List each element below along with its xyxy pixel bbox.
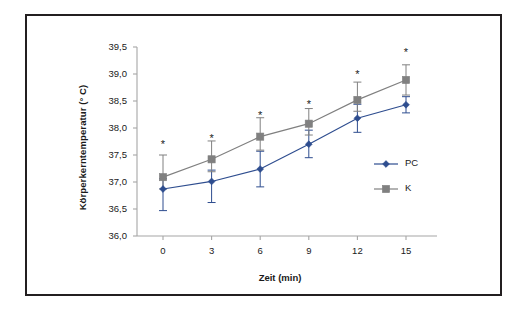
data-point-PC [354, 115, 361, 122]
data-point-K [208, 156, 215, 163]
series-group [159, 65, 410, 211]
y-axis-title: Körperkerntemperatur (° C) [77, 48, 88, 248]
x-tick-label: 9 [294, 245, 324, 256]
data-point-PC [208, 178, 215, 185]
significance-asterisk: * [157, 139, 169, 150]
data-point-K [305, 120, 312, 127]
data-point-K [159, 174, 166, 181]
axes-group [133, 47, 437, 240]
y-tick-label: 37,0 [93, 176, 127, 187]
data-point-PC [403, 101, 410, 108]
x-tick-label: 3 [197, 245, 227, 256]
y-tick-label: 39,5 [93, 41, 127, 52]
legend-label-PC: PC [405, 157, 418, 168]
significance-asterisk: * [351, 69, 363, 80]
legend-group [374, 161, 398, 193]
x-tick-label: 12 [342, 245, 372, 256]
significance-asterisk: * [254, 110, 266, 121]
data-point-PC [257, 166, 264, 173]
y-tick-label: 36,0 [93, 230, 127, 241]
y-tick-label: 39,0 [93, 68, 127, 79]
significance-asterisk: * [303, 99, 315, 110]
x-axis-title: Zeit (min) [130, 272, 430, 283]
data-point-PC [160, 186, 167, 193]
data-point-K [402, 76, 409, 83]
data-point-K [257, 133, 264, 140]
x-tick-label: 0 [148, 245, 178, 256]
legend-marker-K [382, 185, 389, 192]
significance-asterisk: * [206, 133, 218, 144]
data-point-K [354, 96, 361, 103]
data-point-PC [305, 141, 312, 148]
y-tick-label: 36,5 [93, 203, 127, 214]
series-line-PC [163, 105, 406, 189]
x-tick-label: 15 [391, 245, 421, 256]
series-line-K [163, 80, 406, 177]
significance-asterisk: * [400, 47, 412, 58]
legend-marker-PC [383, 161, 390, 168]
y-tick-label: 38,5 [93, 95, 127, 106]
y-tick-label: 37,5 [93, 149, 127, 160]
legend-label-K: K [405, 182, 411, 193]
y-tick-label: 38,0 [93, 122, 127, 133]
x-tick-label: 6 [245, 245, 275, 256]
